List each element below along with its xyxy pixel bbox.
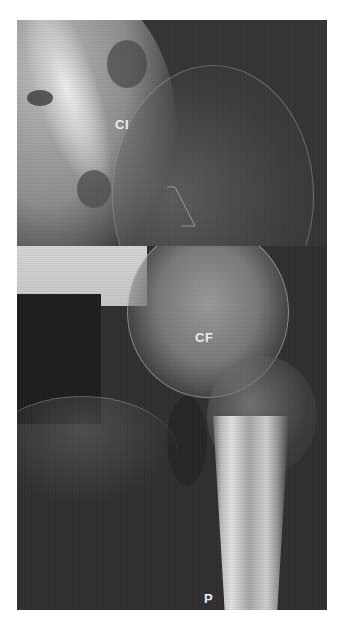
- label-cf: CF: [195, 330, 213, 345]
- label-ci: CI: [115, 117, 129, 132]
- femoral-shaft: [209, 416, 289, 610]
- pelvis-panel: CI: [17, 20, 327, 246]
- pubic-ramus: [17, 396, 177, 507]
- label-p: P: [204, 591, 213, 606]
- hip-panel: CF P: [17, 246, 327, 610]
- radiograph-figure: CI CF P: [17, 20, 327, 610]
- triangle-marker: [17, 20, 327, 246]
